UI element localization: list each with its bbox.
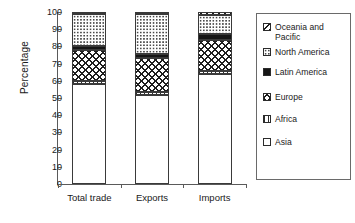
plot-area: 0102030405060708090100 (34, 12, 246, 184)
x-tick-mark (58, 184, 59, 188)
x-tick-label: Exports (136, 192, 168, 203)
x-tick-label: Total trade (67, 192, 111, 203)
bar-segment-oceania-and-pacific[interactable] (72, 12, 106, 14)
solid-white-icon (263, 138, 271, 146)
bar-segment-latin-america[interactable] (72, 46, 106, 50)
bar-segment-asia[interactable] (198, 74, 232, 184)
bar-segment-asia[interactable] (135, 95, 169, 184)
legend-label: Europe (275, 92, 303, 102)
x-tick-label: Imports (199, 192, 231, 203)
y-axis-title: Percentage (19, 8, 30, 128)
stacked-bar[interactable] (135, 12, 169, 184)
legend-label: Asia (275, 137, 292, 147)
bar-segment-asia[interactable] (72, 84, 106, 184)
legend-item[interactable]: Oceania and Pacific (263, 22, 324, 42)
bar-segment-latin-america[interactable] (198, 34, 232, 39)
x-tick-mark (121, 184, 122, 188)
x-axis-line (57, 184, 246, 185)
bar-segment-africa[interactable] (135, 92, 169, 95)
legend-item[interactable]: Asia (263, 137, 292, 147)
legend-label: Oceania and Pacific (275, 22, 324, 42)
x-tick-mark (183, 184, 184, 188)
bar-group (58, 12, 246, 184)
diagonal-lines-icon (263, 23, 271, 31)
bar-segment-latin-america[interactable] (135, 54, 169, 58)
cross-hatch-icon (263, 93, 271, 101)
vertical-lines-icon (263, 115, 271, 123)
bar-segment-africa[interactable] (198, 71, 232, 74)
bar-segment-oceania-and-pacific[interactable] (135, 12, 169, 14)
bar-segment-oceania-and-pacific[interactable] (198, 12, 232, 15)
bar-segment-europe[interactable] (198, 40, 232, 72)
legend-label: North America (275, 47, 329, 57)
bar-segment-europe[interactable] (135, 58, 169, 92)
legend-item[interactable]: Africa (263, 114, 297, 124)
chart-figure: Percentage 0102030405060708090100 Total … (0, 0, 355, 223)
stacked-bar[interactable] (198, 12, 232, 184)
legend-label: Latin America (275, 67, 327, 77)
x-tick-mark (246, 184, 247, 188)
bar-segment-north-america[interactable] (198, 15, 232, 34)
legend-label: Africa (275, 114, 297, 124)
legend-item[interactable]: Europe (263, 92, 303, 102)
bar-segment-north-america[interactable] (72, 14, 106, 46)
stacked-bar[interactable] (72, 12, 106, 184)
dotted-icon (263, 48, 271, 56)
bar-segment-africa[interactable] (72, 81, 106, 84)
legend-item[interactable]: North America (263, 47, 329, 57)
bar-segment-europe[interactable] (72, 50, 106, 81)
bar-segment-north-america[interactable] (135, 14, 169, 54)
legend-item[interactable]: Latin America (263, 67, 327, 77)
chart-legend: Oceania and PacificNorth AmericaLatin Am… (256, 13, 351, 180)
solid-black-icon (263, 68, 271, 76)
x-axis-label-group: Total tradeExportsImports (34, 192, 246, 206)
